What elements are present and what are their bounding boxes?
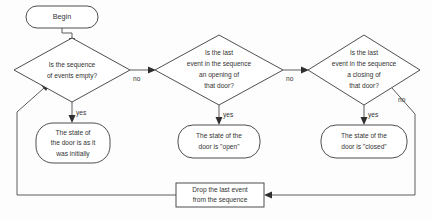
node-result-open[interactable]: The state of the door is "open" [178, 125, 260, 158]
decision-opening-line2: event in the sequence [187, 60, 252, 68]
decision-empty-line2: of events empty? [47, 72, 98, 80]
decision-opening-line3: an opening of [199, 71, 239, 79]
edge-decision-empty-yes [69, 102, 76, 123]
drop-event-line2: from the sequence [193, 196, 248, 204]
decision-empty-shape [14, 38, 130, 102]
result-open-line1: The state of the [196, 132, 242, 139]
result-closed-line2: door is "closed" [341, 143, 387, 150]
node-decision-empty[interactable]: Is the sequence of events empty? [14, 38, 130, 102]
edge-decision-closing-yes [361, 105, 368, 125]
decision-closing-line3: a closing of [347, 71, 381, 79]
decision-closing-line4: that door? [349, 82, 379, 89]
result-initial-line1: The state of [56, 129, 91, 136]
edge-label-opening-no: no [286, 75, 294, 82]
decision-closing-line1: Is the last [350, 49, 378, 56]
drop-event-line1: Drop the last event [192, 186, 248, 194]
edge-decision-opening-no [283, 67, 309, 74]
result-open-shape [178, 125, 260, 158]
node-begin[interactable]: Begin [26, 6, 98, 28]
edge-label-empty-no: no [133, 75, 141, 82]
node-result-closed[interactable]: The state of the door is "closed" [321, 125, 407, 158]
result-closed-shape [321, 125, 407, 158]
edge-label-closing-yes: yes [368, 111, 379, 119]
begin-label: Begin [53, 12, 71, 21]
decision-closing-line2: event in the sequence [332, 60, 397, 68]
node-decision-opening[interactable]: Is the last event in the sequence an ope… [155, 35, 283, 105]
result-initial-line2: the door is as it [51, 139, 96, 146]
node-result-initial[interactable]: The state of the door is as it was initi… [36, 123, 110, 163]
result-closed-line1: The state of the [341, 132, 387, 139]
edge-label-opening-yes: yes [223, 111, 234, 119]
flowchart-canvas: Begin Is the sequence of events empty? I… [0, 0, 432, 219]
result-open-line2: door is "open" [199, 143, 241, 151]
edge-decision-empty-no [130, 67, 156, 74]
node-drop-event[interactable]: Drop the last event from the sequence [176, 183, 264, 207]
decision-opening-line4: that door? [204, 82, 234, 89]
node-decision-closing[interactable]: Is the last event in the sequence a clos… [308, 35, 420, 105]
decision-opening-line1: Is the last [205, 49, 233, 56]
edge-label-empty-yes: yes [76, 109, 87, 117]
result-initial-line3: was initially [55, 150, 90, 158]
edge-label-closing-no: no [398, 96, 406, 103]
edge-decision-opening-yes [216, 105, 223, 125]
decision-empty-line1: Is the sequence [49, 61, 96, 69]
